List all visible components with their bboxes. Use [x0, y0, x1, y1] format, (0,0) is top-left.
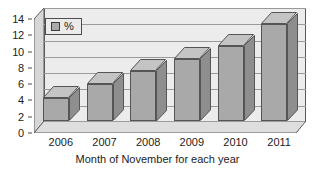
y-axis-tick-mark — [28, 35, 32, 36]
y-axis-tick-label: 4 — [0, 95, 26, 106]
x-axis-tick-label: 2006 — [49, 136, 73, 148]
bar — [261, 13, 297, 121]
y-axis-tick-label: 14 — [0, 14, 26, 25]
x-axis: 200620072008200920102011 — [34, 136, 306, 152]
bar-side-face — [244, 35, 255, 121]
bar-side-face — [287, 13, 298, 121]
y-axis-tick-mark — [28, 19, 32, 20]
y-axis-tick-label: 6 — [0, 79, 26, 90]
bar-top-face — [174, 47, 210, 59]
bar-front-face — [87, 84, 113, 121]
y-axis-tick-mark — [28, 100, 32, 101]
bar — [218, 35, 254, 121]
bar-top-face — [130, 59, 166, 71]
bar-top-face — [87, 72, 123, 84]
bar-front-face — [174, 59, 200, 121]
chart-legend: % — [45, 18, 82, 35]
x-axis-tick-label: 2009 — [180, 136, 204, 148]
bar-front-face — [130, 71, 156, 121]
bar — [87, 73, 123, 121]
x-axis-tick-label: 2007 — [92, 136, 116, 148]
bar-top-face — [43, 86, 79, 98]
bar-front-face — [261, 24, 287, 121]
legend-label-percent: % — [64, 21, 74, 32]
y-axis-tick-mark — [28, 133, 32, 134]
bar-front-face — [218, 46, 244, 121]
y-axis-tick-label: 10 — [0, 46, 26, 57]
y-axis-tick-label: 0 — [0, 128, 26, 139]
y-axis-tick-label: 8 — [0, 62, 26, 73]
x-axis-title: Month of November for each year — [0, 153, 315, 166]
bar-top-face — [261, 12, 297, 24]
x-axis-tick-label: 2008 — [136, 136, 160, 148]
legend-swatch-percent — [51, 22, 60, 31]
bar-top-face — [218, 34, 254, 46]
y-axis-tick-label: 2 — [0, 111, 26, 122]
y-axis: 02468101214 — [0, 0, 26, 176]
bar — [174, 48, 210, 121]
bar-chart: 02468101214 % 200620072008200920102011 M… — [0, 0, 315, 176]
x-axis-tick-label: 2011 — [267, 136, 291, 148]
y-axis-tick-mark — [28, 51, 32, 52]
y-axis-tick-mark — [28, 67, 32, 68]
y-axis-tick-mark — [28, 116, 32, 117]
bar-front-face — [43, 98, 69, 121]
bar — [130, 60, 166, 121]
y-axis-tick-label: 12 — [0, 30, 26, 41]
x-axis-tick-label: 2010 — [223, 136, 247, 148]
y-axis-tick-mark — [28, 84, 32, 85]
bar — [43, 87, 79, 121]
